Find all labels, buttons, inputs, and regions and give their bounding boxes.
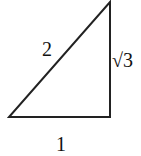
vertical-leg-label: √3 — [112, 50, 133, 70]
triangle-figure — [0, 0, 141, 156]
triangle — [9, 2, 110, 117]
hypotenuse-label: 2 — [42, 39, 52, 59]
horizontal-leg-label: 1 — [56, 134, 66, 154]
